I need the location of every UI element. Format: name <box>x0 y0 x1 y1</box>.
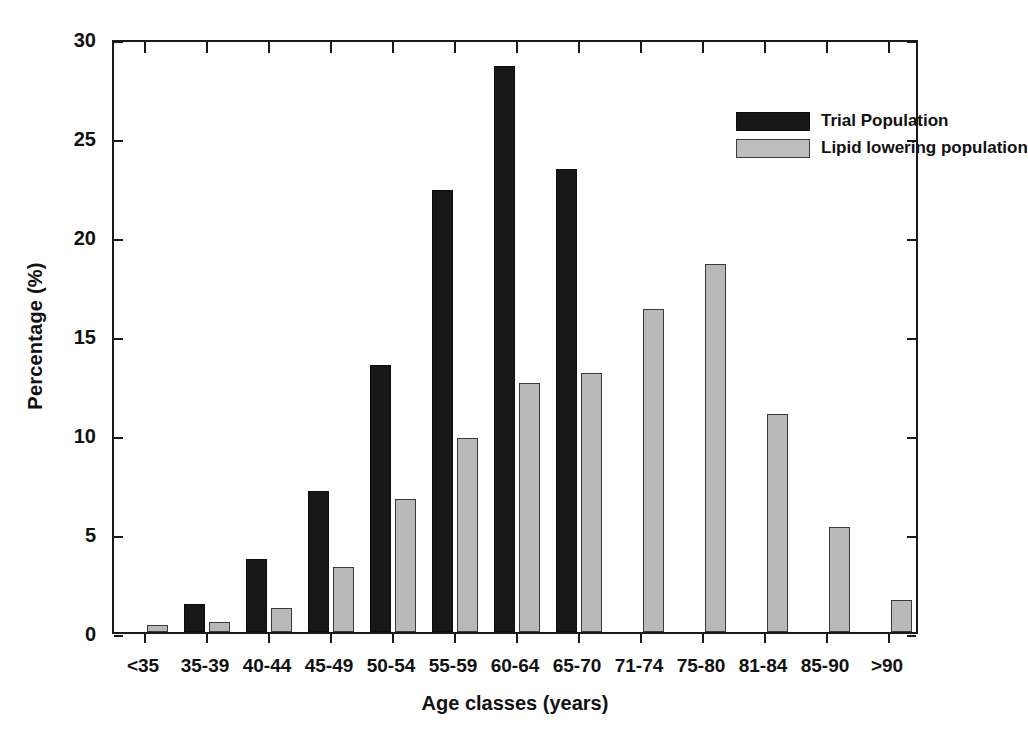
x-tick-mark <box>764 42 766 53</box>
x-tick-mark <box>268 632 270 643</box>
x-axis-tick-label: 40-44 <box>243 655 292 677</box>
bar-trial <box>432 190 453 632</box>
x-tick-mark <box>764 632 766 643</box>
x-tick-mark <box>888 632 890 643</box>
bar-lipid <box>829 527 850 632</box>
x-tick-mark <box>888 42 890 53</box>
x-tick-mark <box>144 632 146 643</box>
y-tick-mark <box>114 536 123 538</box>
x-axis-tick-label: 50-54 <box>367 655 416 677</box>
x-axis-tick-label: 81-84 <box>739 655 788 677</box>
bar-lipid <box>705 264 726 632</box>
x-tick-mark <box>826 42 828 53</box>
legend-swatch-trial <box>736 112 810 131</box>
legend-swatch-lipid <box>736 139 810 158</box>
y-axis-tick-label: 10 <box>52 425 96 448</box>
y-tick-mark <box>114 41 123 43</box>
legend-label: Trial Population <box>821 111 949 131</box>
bar-lipid <box>333 567 354 632</box>
x-tick-mark <box>392 42 394 53</box>
y-axis-tick-label: 30 <box>52 29 96 52</box>
y-tick-mark <box>114 635 123 637</box>
bar-lipid <box>767 414 788 632</box>
bar-trial <box>556 169 577 632</box>
y-tick-mark <box>907 239 916 241</box>
y-tick-mark <box>907 338 916 340</box>
legend-label: Lipid lowering population <box>821 138 1028 158</box>
x-tick-mark <box>578 42 580 53</box>
x-tick-mark <box>268 42 270 53</box>
x-axis-tick-labels: <3535-3940-4445-4950-5455-5960-6465-7071… <box>112 655 918 689</box>
x-axis-tick-label: 60-64 <box>491 655 540 677</box>
legend-item: Lipid lowering population <box>736 137 996 159</box>
x-tick-mark <box>516 632 518 643</box>
legend-item: Trial Population <box>736 110 996 132</box>
x-tick-mark <box>144 42 146 53</box>
bar-lipid <box>457 438 478 632</box>
x-axis-title: Age classes (years) <box>112 692 918 715</box>
bar-trial <box>494 66 515 632</box>
bar-lipid <box>395 499 416 632</box>
x-tick-mark <box>640 632 642 643</box>
bar-trial <box>308 491 329 632</box>
y-tick-mark <box>114 338 123 340</box>
plot-area: Trial PopulationLipid lowering populatio… <box>112 40 918 634</box>
x-axis-tick-label: >90 <box>871 655 903 677</box>
x-axis-tick-label: <35 <box>127 655 159 677</box>
y-tick-mark <box>114 239 123 241</box>
bar-trial <box>370 365 391 632</box>
x-axis-tick-label: 71-74 <box>615 655 664 677</box>
x-axis-tick-label: 55-59 <box>429 655 478 677</box>
x-tick-mark <box>454 42 456 53</box>
bar-trial <box>184 604 205 632</box>
x-axis-tick-label: 45-49 <box>305 655 354 677</box>
x-tick-mark <box>702 632 704 643</box>
x-tick-mark <box>578 632 580 643</box>
x-tick-mark <box>516 42 518 53</box>
bar-lipid <box>519 383 540 632</box>
x-axis-tick-label: 75-80 <box>677 655 726 677</box>
bar-lipid <box>147 625 168 632</box>
x-tick-mark <box>454 632 456 643</box>
x-tick-mark <box>330 42 332 53</box>
x-tick-mark <box>206 632 208 643</box>
y-axis-tick-label: 5 <box>52 524 96 547</box>
y-axis-tick-label: 20 <box>52 227 96 250</box>
bar-lipid <box>643 309 664 632</box>
bar-trial <box>246 559 267 632</box>
x-tick-mark <box>702 42 704 53</box>
bar-lipid <box>271 608 292 632</box>
y-tick-mark <box>907 437 916 439</box>
x-tick-mark <box>640 42 642 53</box>
y-tick-mark <box>907 41 916 43</box>
y-axis-tick-label: 25 <box>52 128 96 151</box>
bar-lipid <box>209 622 230 632</box>
y-axis-tick-label: 0 <box>52 623 96 646</box>
x-axis-tick-label: 85-90 <box>801 655 850 677</box>
bar-lipid <box>891 600 912 632</box>
y-tick-mark <box>114 140 123 142</box>
y-tick-mark <box>907 536 916 538</box>
x-tick-mark <box>206 42 208 53</box>
y-axis-tick-labels: 051015202530 <box>44 0 96 753</box>
y-axis-tick-label: 15 <box>52 326 96 349</box>
chart-legend: Trial PopulationLipid lowering populatio… <box>736 110 996 164</box>
bar-lipid <box>581 373 602 632</box>
x-tick-mark <box>330 632 332 643</box>
y-tick-mark <box>907 635 916 637</box>
x-axis-tick-label: 35-39 <box>181 655 230 677</box>
x-tick-mark <box>826 632 828 643</box>
x-axis-tick-label: 65-70 <box>553 655 602 677</box>
x-tick-mark <box>392 632 394 643</box>
y-tick-mark <box>114 437 123 439</box>
